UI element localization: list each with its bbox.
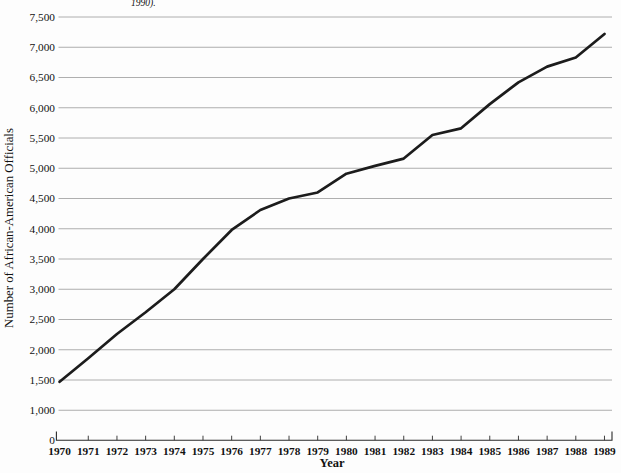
chart-plot-area: 01,0001,5002,0002,5003,0003,5004,0004,50… <box>30 11 617 457</box>
x-tick-label: 1972 <box>106 445 129 457</box>
y-tick-label: 3,000 <box>30 283 56 295</box>
y-tick-label: 4,500 <box>30 192 56 204</box>
y-tick-label: 5,000 <box>30 162 56 174</box>
x-tick-label: 1981 <box>364 445 387 457</box>
y-tick-label: 7,500 <box>30 11 56 23</box>
x-tick-label: 1973 <box>134 445 157 457</box>
x-tick-label: 1986 <box>507 445 530 457</box>
x-tick-label: 1984 <box>450 445 473 457</box>
x-axis-line <box>56 432 612 441</box>
line-chart-figure: 1990). Number of African-American Offici… <box>0 0 621 473</box>
x-tick-label: 1976 <box>220 445 243 457</box>
x-tick-label: 1987 <box>536 445 559 457</box>
data-line-officials <box>60 34 605 382</box>
x-tick-label: 1978 <box>278 445 301 457</box>
x-tick-label: 1983 <box>421 445 444 457</box>
x-tick-label: 1974 <box>163 445 186 457</box>
x-tick-label: 1982 <box>392 445 415 457</box>
y-tick-label: 1,500 <box>30 374 56 386</box>
y-axis-title: Number of African-American Officials <box>2 128 16 328</box>
x-tick-label: 1988 <box>565 445 588 457</box>
x-tick-label: 1985 <box>478 445 501 457</box>
x-axis-title: Year <box>320 456 345 470</box>
caption-fragment: 1990). <box>131 0 156 9</box>
y-tick-label: 7,000 <box>30 41 56 53</box>
y-tick-label: 5,500 <box>30 132 56 144</box>
x-tick-label: 1975 <box>192 445 215 457</box>
x-tick-label: 1977 <box>249 445 272 457</box>
y-tick-label: 2,500 <box>30 313 56 325</box>
y-tick-label: 2,000 <box>30 344 56 356</box>
x-tick-label: 1971 <box>77 445 100 457</box>
y-tick-label: 6,500 <box>30 71 56 83</box>
y-tick-label: 6,000 <box>30 102 56 114</box>
y-tick-label: 3,500 <box>30 253 56 265</box>
chart-canvas: 1990). Number of African-American Offici… <box>0 0 621 473</box>
y-tick-label: 4,000 <box>30 223 56 235</box>
x-tick-label: 1989 <box>593 445 616 457</box>
x-tick-label: 1970 <box>48 445 71 457</box>
y-tick-label: 1,000 <box>30 404 56 416</box>
